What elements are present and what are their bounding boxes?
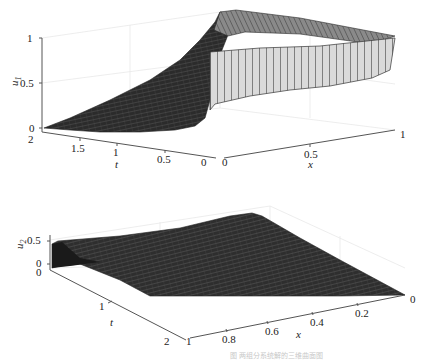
plot1-wall [210, 38, 395, 110]
plot2-x-label: x [295, 328, 301, 340]
plot2-t-tick-1: 1 [99, 300, 105, 312]
plot1-t-tick-05: 0.5 [157, 153, 171, 165]
plot2-x-tick-06: 0.6 [265, 325, 279, 337]
plot1-surface [44, 12, 236, 132]
plot1-t-tick-2: 2 [28, 133, 34, 145]
svg-text:u2: u2 [13, 240, 28, 250]
plot1-x-label: x [307, 158, 313, 170]
plot1-t-label: t [115, 158, 119, 170]
figure: 1 0.5 0 2 1.5 1 0.5 0 0 0.5 1 u1 t x [0, 0, 427, 361]
plot2-z-label: u2 [13, 240, 28, 250]
figure-caption: 图 两组分系统解的三维曲面图 [230, 351, 323, 360]
plot1-z-tick-1: 1 [27, 32, 33, 44]
plot2-t-tick-2: 2 [164, 335, 170, 347]
plot2-z-tick-05: 0.5 [27, 234, 41, 246]
plot-u2: 0.5 0 0 1 2 1 0.8 0.6 0.4 0.2 0 u2 t x [13, 206, 416, 347]
plot1-t-tick-1: 1 [113, 146, 119, 158]
plot1-t-tick-15: 1.5 [71, 142, 85, 154]
plot1-t-tick-0: 0 [201, 156, 207, 168]
plot2-surface [52, 213, 405, 296]
plot2-t-tick-0: 0 [36, 266, 42, 278]
plot2-x-tick-08: 0.8 [222, 333, 236, 345]
plot2-t-label: t [110, 316, 114, 328]
plot2-x-tick-1: 1 [186, 335, 192, 347]
plot-u1: 1 0.5 0 2 1.5 1 0.5 0 0 0.5 1 u1 t x [8, 10, 406, 170]
plot1-x-tick-1: 1 [400, 128, 406, 140]
plot2-x-tick-04: 0.4 [310, 316, 324, 328]
plot2-x-tick-02: 0.2 [355, 307, 369, 319]
plot2-x-tick-0: 0 [410, 293, 416, 305]
plot1-plateau [214, 10, 395, 44]
plot1-x-tick-0: 0 [222, 156, 228, 168]
